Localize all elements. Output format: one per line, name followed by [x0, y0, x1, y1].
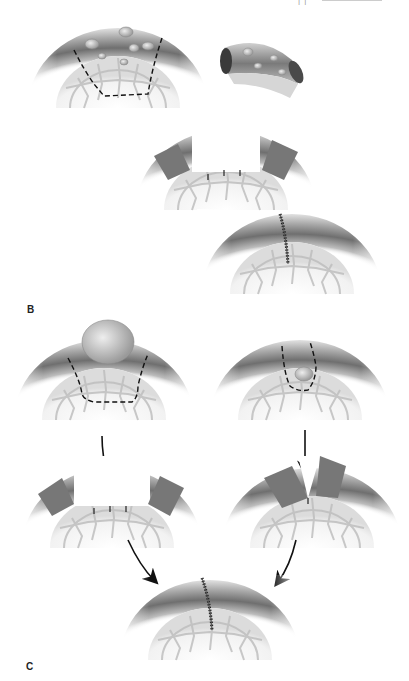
panel-label-c: C — [26, 661, 33, 672]
panel-c-left-wide-defect — [17, 456, 207, 553]
panel-c-right-small-lesion — [205, 335, 395, 425]
panel-b-step3-open-ends — [131, 120, 321, 215]
panel-c-right-narrow-defect — [217, 456, 407, 553]
panel-b-step1-marked-segment — [23, 23, 213, 113]
panel-c-final-sutured — [115, 575, 305, 665]
surgical-illustration — [0, 0, 409, 681]
panel-c-left-large-lesion — [9, 320, 199, 425]
panel-label-b: B — [27, 304, 34, 315]
panel-b — [23, 23, 387, 299]
panel-b-step4-sutured — [197, 209, 387, 299]
panel-b-step2-excised-segment — [220, 43, 307, 98]
panel-c — [9, 320, 407, 665]
